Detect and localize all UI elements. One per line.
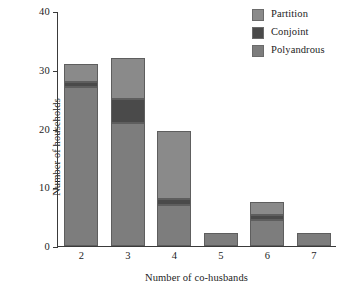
y-axis-tick — [53, 71, 58, 72]
bar-segment-partition[interactable] — [157, 131, 191, 199]
x-axis-tick-label: 3 — [125, 251, 130, 262]
legend-label: Conjoint — [271, 27, 309, 38]
legend-item[interactable]: Polyandrous — [252, 44, 325, 57]
bar-segment-polyandrous[interactable] — [297, 233, 331, 247]
x-axis-tick-label: 2 — [79, 251, 84, 262]
y-axis-tick-label: 30 — [39, 66, 50, 77]
bar-chart-figure: Number of households 010203040 234567 Nu… — [0, 0, 358, 293]
bar-column[interactable] — [297, 233, 331, 247]
bar-segment-polyandrous[interactable] — [111, 123, 145, 246]
y-axis-tick-label: 40 — [39, 7, 50, 18]
bar-column[interactable] — [204, 233, 238, 247]
bar-segment-conjoint[interactable] — [157, 199, 191, 205]
legend-item[interactable]: Partition — [252, 8, 325, 21]
bar-segment-polyandrous[interactable] — [250, 220, 284, 246]
x-axis-tick-label: 4 — [172, 251, 177, 262]
bar-segment-conjoint[interactable] — [111, 99, 145, 123]
bar-segment-polyandrous[interactable] — [64, 87, 98, 246]
y-axis-tick — [53, 247, 58, 248]
bar-column[interactable] — [64, 64, 98, 246]
bar-segment-partition[interactable] — [250, 202, 284, 216]
x-axis-tick-label: 5 — [218, 251, 223, 262]
legend-swatch-icon — [252, 45, 264, 57]
y-axis-tick-label: 20 — [39, 124, 50, 135]
bar-segment-partition[interactable] — [111, 58, 145, 99]
legend-label: Polyandrous — [271, 45, 325, 56]
bar-segment-conjoint[interactable] — [64, 82, 98, 88]
x-axis-tick-label: 7 — [311, 251, 316, 262]
x-axis-title: Number of co-husbands — [57, 272, 336, 283]
legend-swatch-icon — [252, 9, 264, 21]
bar-segment-conjoint[interactable] — [250, 215, 284, 219]
bar-segment-polyandrous[interactable] — [157, 205, 191, 246]
y-axis-tick-label: 0 — [45, 242, 50, 253]
bar-column[interactable] — [111, 58, 145, 246]
y-axis-tick — [53, 130, 58, 131]
legend-label: Partition — [271, 9, 308, 20]
y-axis-tick — [53, 12, 58, 13]
bar-segment-partition[interactable] — [64, 64, 98, 82]
x-axis-tick-label: 6 — [265, 251, 270, 262]
bar-segment-polyandrous[interactable] — [204, 233, 238, 247]
y-axis-tick-label: 10 — [39, 183, 50, 194]
chart-legend: PartitionConjointPolyandrous — [252, 8, 325, 57]
bar-column[interactable] — [250, 202, 284, 246]
legend-item[interactable]: Conjoint — [252, 26, 325, 39]
legend-swatch-icon — [252, 27, 264, 39]
y-axis-tick — [53, 188, 58, 189]
bar-column[interactable] — [157, 131, 191, 246]
